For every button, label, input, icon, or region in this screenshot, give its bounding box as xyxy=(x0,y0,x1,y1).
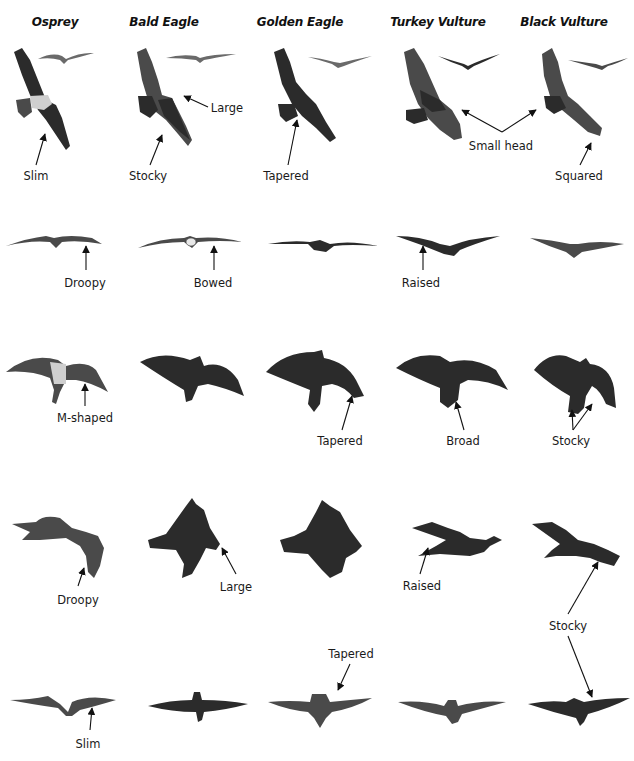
bald-eagle-soaring-icon xyxy=(137,48,192,146)
turkey-vulture-banking-icon xyxy=(396,355,508,408)
turkey-vulture-glide-icon xyxy=(398,700,506,724)
label-small-head: Small head xyxy=(469,139,533,153)
silhouette-layer xyxy=(0,0,634,761)
black-vulture-glide-icon xyxy=(528,698,630,726)
arrow-squared-black-vulture xyxy=(580,143,591,165)
black-vulture-small-soaring-icon xyxy=(568,58,628,70)
arrow-stocky-black-vulture-glide xyxy=(568,636,592,697)
osprey-head-on-icon xyxy=(6,236,102,248)
bald-eagle-small-soaring-icon xyxy=(166,54,236,63)
golden-eagle-glide-icon xyxy=(268,694,372,728)
black-vulture-banking-icon xyxy=(534,355,616,414)
label-raised: Raised xyxy=(402,276,440,290)
osprey-side-icon xyxy=(12,517,104,578)
arrow-small-head-black-vulture xyxy=(502,110,536,132)
golden-eagle-banking-icon xyxy=(266,350,364,412)
golden-eagle-head-on-icon xyxy=(268,240,378,252)
label-tapered-glide: Tapered xyxy=(328,647,373,661)
label-slim: Slim xyxy=(24,169,49,183)
bald-eagle-side-icon xyxy=(148,498,220,578)
turkey-vulture-side-icon xyxy=(412,522,502,556)
label-slim-glide: Slim xyxy=(76,737,101,751)
label-stocky: Stocky xyxy=(129,169,167,183)
arrow-stocky-black-vulture-tail xyxy=(572,410,573,430)
arrow-stocky-black-vulture-side xyxy=(568,562,598,614)
arrow-slim-osprey-glide xyxy=(90,708,92,730)
arrow-tapered-golden-eagle-glide xyxy=(338,664,350,690)
arrow-broad-turkey-vulture xyxy=(456,402,464,430)
turkey-vulture-small-soaring-icon xyxy=(438,54,500,70)
arrow-small-head-turkey-vulture xyxy=(462,110,502,132)
label-stocky-side: Stocky xyxy=(549,619,587,633)
arrow-slim-osprey xyxy=(36,134,45,165)
golden-eagle-side-icon xyxy=(280,500,362,578)
black-vulture-head-on-icon xyxy=(530,238,624,258)
label-tapered: Tapered xyxy=(263,169,308,183)
arrow-raised-turkey-vulture-side xyxy=(420,548,428,574)
black-vulture-side-icon xyxy=(532,522,620,566)
turkey-vulture-head-on-icon xyxy=(396,236,500,256)
arrow-droopy-osprey-side xyxy=(78,568,84,586)
arrow-large-bald-eagle xyxy=(184,96,208,107)
black-vulture-soaring-icon xyxy=(542,48,602,136)
label-squared: Squared xyxy=(555,169,603,183)
label-stocky-banking: Stocky xyxy=(552,434,590,448)
golden-eagle-small-soaring-icon xyxy=(308,56,372,68)
bald-eagle-glide-icon xyxy=(148,692,248,722)
arrow-large-bald-eagle-side xyxy=(222,548,236,574)
label-raised-side: Raised xyxy=(403,579,441,593)
bald-eagle-banking-icon xyxy=(140,355,244,402)
label-droopy: Droopy xyxy=(64,276,106,290)
osprey-soaring-icon xyxy=(14,48,70,150)
label-droopy-side: Droopy xyxy=(57,593,99,607)
label-bowed: Bowed xyxy=(194,276,233,290)
label-large-side: Large xyxy=(220,580,252,594)
label-broad: Broad xyxy=(446,434,480,448)
arrow-stocky-bald-eagle xyxy=(150,135,162,165)
arrow-tapered-golden-eagle xyxy=(288,120,297,165)
label-large: Large xyxy=(211,101,243,115)
label-tapered-banking: Tapered xyxy=(317,434,362,448)
arrow-tapered-golden-eagle-banking xyxy=(342,396,352,430)
osprey-glide-icon xyxy=(10,696,116,716)
label-m-shaped: M-shaped xyxy=(57,411,113,425)
osprey-small-soaring-icon xyxy=(38,53,94,64)
osprey-banking-icon xyxy=(6,358,108,404)
